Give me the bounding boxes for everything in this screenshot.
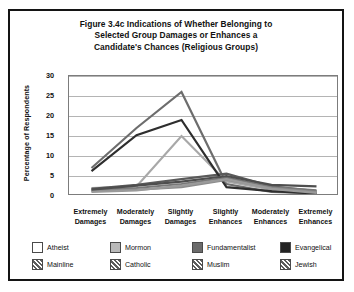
x-axis-labels: ExtremelyDamagesModeratelyDamagesSlightl… (68, 208, 338, 232)
legend-item-label: Muslim (207, 261, 229, 269)
legend-item-mainline[interactable]: Mainline (32, 256, 73, 273)
x-axis-tick-label: ExtremelyEnhances (289, 208, 343, 227)
y-axis-tick-label: 25 (24, 91, 54, 100)
chart-title-line-3: Candidate's Chances (Religious Groups) (10, 42, 342, 53)
plot-area (68, 75, 338, 195)
chart-title: Figure 3.4c Indications of Whether Belon… (10, 19, 342, 53)
legend-item-label: Atheist (47, 244, 69, 252)
legend-item-atheist[interactable]: Atheist (32, 239, 69, 256)
legend-swatch-hatch-icon (192, 259, 203, 270)
y-axis-tick-label: 5 (24, 171, 54, 180)
legend-item-label: Mainline (47, 261, 73, 269)
legend-swatch-hatch-icon (32, 259, 43, 270)
legend-swatch-mid-gray-icon (192, 242, 203, 253)
x-axis-tick-label-line: Extremely (289, 208, 343, 218)
legend-swatch-dark-icon (280, 242, 291, 253)
legend-item-muslim[interactable]: Muslim (192, 256, 229, 273)
legend-swatch-hatch-icon (110, 259, 121, 270)
figure-container: Figure 3.4c Indications of Whether Belon… (8, 9, 344, 281)
y-axis-tick-label: 10 (24, 151, 54, 160)
legend-item-fundamentalist[interactable]: Fundamentalist (192, 239, 256, 256)
legend-item-label: Catholic (125, 261, 151, 269)
legend-row: MainlineCatholicMuslimJewish (32, 256, 326, 273)
chart-title-line-2: Selected Group Damages or Enhances a (10, 30, 342, 41)
chart-title-line-1: Figure 3.4c Indications of Whether Belon… (10, 19, 342, 30)
plot-wrapper: 051015202530 (56, 75, 338, 205)
legend-item-jewish[interactable]: Jewish (280, 256, 317, 273)
legend-item-evangelical[interactable]: Evangelical (280, 239, 331, 256)
legend-item-label: Mormon (125, 244, 151, 252)
legend-row: AtheistMormonFundamentalistEvangelical (32, 239, 326, 256)
y-axis-tick-label: 15 (24, 131, 54, 140)
x-axis-tick-label-line: Enhances (289, 218, 343, 228)
y-axis-tick-label: 0 (24, 191, 54, 200)
legend-swatch-white-icon (32, 242, 43, 253)
legend-item-catholic[interactable]: Catholic (110, 256, 151, 273)
chart-legend: AtheistMormonFundamentalistEvangelicalMa… (32, 239, 326, 273)
legend-item-label: Jewish (295, 261, 317, 269)
legend-swatch-hatch-icon (280, 259, 291, 270)
y-axis-title: Percentage of Respondents (23, 0, 35, 73)
series-lines (69, 76, 338, 195)
y-axis-tick-label: 20 (24, 111, 54, 120)
y-axis-tick-label: 30 (24, 71, 54, 80)
legend-swatch-light-gray-icon (110, 242, 121, 253)
legend-item-label: Fundamentalist (207, 244, 256, 252)
legend-item-mormon[interactable]: Mormon (110, 239, 151, 256)
legend-item-label: Evangelical (295, 244, 331, 252)
